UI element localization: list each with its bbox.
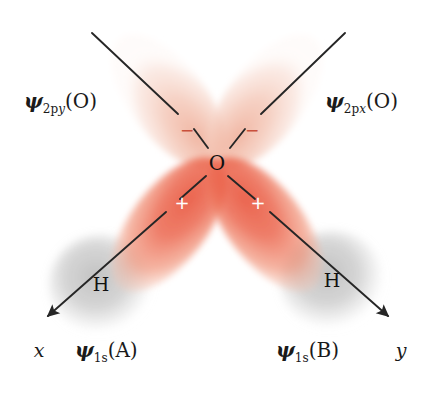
label-psi-1s-b: ψ1s(B) <box>276 338 339 365</box>
axis-label-x: x <box>34 339 45 361</box>
label-psi-2py-symbol: ψ <box>24 89 44 113</box>
label-psi-1s-b-subscript: 1s <box>295 351 309 365</box>
sign-upper-right-minus: − <box>245 120 259 140</box>
label-psi-1s-a-symbol: ψ <box>75 338 95 362</box>
atom-label-hydrogen-a: H <box>93 273 110 295</box>
label-psi-1s-a: ψ1s(A) <box>75 338 138 365</box>
atom-label-oxygen: O <box>209 151 225 175</box>
label-psi-2px-oxygen: ψ2px(O) <box>325 89 398 116</box>
label-psi-2px-subscript: 2p <box>344 102 360 116</box>
orbital-diagram-figure: − − + + O H H ψ2py(O) ψ2px(O) ψ1s(A) <box>0 0 440 395</box>
label-psi-1s-a-atom: (A) <box>108 338 138 362</box>
label-psi-1s-b-symbol: ψ <box>276 338 296 362</box>
orbital-diagram-svg: − − + + O H H ψ2py(O) ψ2px(O) ψ1s(A) <box>0 0 440 395</box>
label-psi-2py-oxygen: ψ2py(O) <box>24 89 97 116</box>
sign-lower-right-plus: + <box>250 192 265 213</box>
label-psi-1s-a-subscript: 1s <box>94 351 108 365</box>
label-psi-2py-atom: (O) <box>65 89 97 113</box>
label-psi-2px-atom: (O) <box>366 89 398 113</box>
label-psi-2px-symbol: ψ <box>325 89 345 113</box>
sign-upper-left-minus: − <box>180 120 194 140</box>
axis-label-y: y <box>395 339 407 361</box>
label-psi-1s-b-atom: (B) <box>309 338 339 362</box>
label-psi-2py-subscript: 2p <box>43 102 59 116</box>
sign-lower-left-plus: + <box>174 192 189 213</box>
atom-label-hydrogen-b: H <box>324 269 341 291</box>
